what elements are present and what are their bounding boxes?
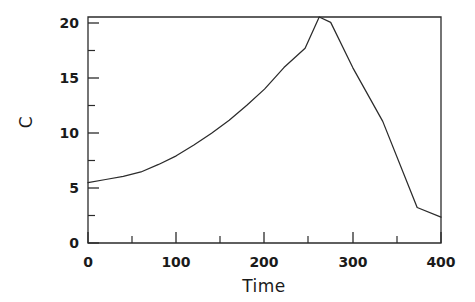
y-tick-label-5: 5 (69, 180, 79, 196)
x-tick-label-100: 100 (161, 254, 190, 270)
line-chart: 0 5 10 15 20 0 100 200 300 400 Time C (0, 0, 475, 302)
x-tick-label-400: 400 (426, 254, 455, 270)
y-axis-ticks (88, 23, 99, 243)
y-tick-label-0: 0 (69, 235, 79, 251)
chart-figure: 0 5 10 15 20 0 100 200 300 400 Time C (0, 0, 475, 302)
x-axis-tick-labels: 0 100 200 300 400 (83, 254, 456, 270)
y-tick-label-15: 15 (60, 70, 79, 86)
x-tick-label-0: 0 (83, 254, 93, 270)
x-axis-title: Time (241, 276, 286, 296)
x-axis-ticks (88, 232, 441, 243)
y-axis-tick-labels: 0 5 10 15 20 (60, 15, 80, 251)
x-tick-label-200: 200 (249, 254, 278, 270)
data-series-line (88, 17, 441, 217)
plot-frame (88, 17, 441, 243)
x-tick-label-300: 300 (338, 254, 367, 270)
y-tick-label-20: 20 (60, 15, 80, 31)
y-tick-label-10: 10 (60, 125, 80, 141)
y-axis-title: C (16, 116, 36, 128)
